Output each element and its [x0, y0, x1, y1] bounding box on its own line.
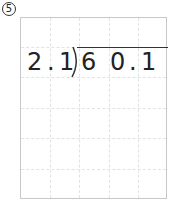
grid-line [21, 77, 166, 78]
grid-line [21, 108, 166, 109]
grid-line [21, 138, 166, 139]
dividend-digit: 0 [110, 50, 125, 74]
problem-number: 5 [2, 2, 16, 16]
grid-line [21, 169, 166, 170]
divisor-digit: 2 [27, 50, 42, 74]
dividend-decimal-point: . [129, 50, 137, 74]
division-grid: 2 . 1 6 0 . 1 [20, 17, 167, 199]
dividend-digit: 1 [141, 50, 156, 74]
dividend-digit: 6 [81, 50, 96, 74]
divisor-decimal-point: . [47, 50, 55, 74]
division-bracket-icon [71, 47, 79, 77]
